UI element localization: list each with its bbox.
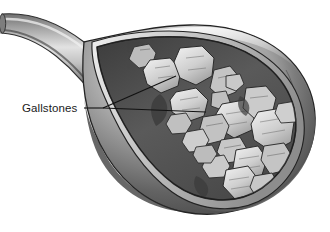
duct-cut-end bbox=[0, 14, 6, 33]
gallstones-label: Gallstones bbox=[22, 102, 77, 114]
gallbladder-figure: Gallstones bbox=[0, 0, 330, 232]
gallbladder-illustration: Gallstones bbox=[0, 0, 330, 232]
